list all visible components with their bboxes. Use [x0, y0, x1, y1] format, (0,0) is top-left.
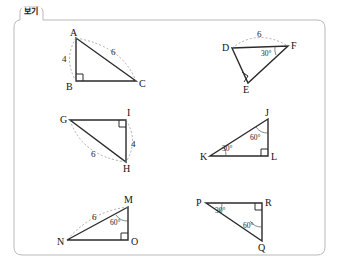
- triangle-abc: [70, 30, 137, 81]
- measure-label-gh: 6: [91, 150, 96, 159]
- legend-title: 보기: [22, 7, 41, 17]
- legend-frame: [0, 0, 338, 266]
- measure-arc-ab: [70, 38, 77, 81]
- frame-outline: [14, 7, 325, 255]
- triangle-gih-outline: [70, 120, 126, 162]
- measure-label-ac: 6: [111, 48, 116, 57]
- vertex-label-k: K: [200, 152, 207, 162]
- angle-label-k: 30°: [222, 145, 233, 153]
- vertex-label-p: P: [196, 198, 202, 208]
- right-angle-marker-r: [255, 203, 262, 210]
- vertex-label-e: E: [243, 85, 249, 95]
- vertex-label-q: Q: [258, 243, 265, 253]
- right-angle-marker-l: [261, 149, 268, 156]
- vertex-label-j: J: [265, 108, 269, 118]
- vertex-label-r: R: [265, 198, 272, 208]
- vertex-label-b: B: [66, 82, 73, 92]
- vertex-label-i: I: [127, 108, 130, 118]
- measure-label-ih: 4: [131, 140, 136, 149]
- vertex-label-f: F: [291, 41, 297, 51]
- vertex-label-d: D: [222, 43, 229, 53]
- angle-label-m: 60°: [110, 219, 121, 227]
- angle-arc-f: [275, 47, 276, 55]
- triangle-gih: [70, 120, 133, 162]
- triangle-def: [232, 37, 288, 83]
- angle-label-q: 60°: [243, 222, 254, 230]
- right-angle-marker-i: [119, 120, 126, 127]
- measure-label-df: 6: [257, 30, 262, 39]
- vertex-label-h: H: [123, 164, 130, 174]
- measure-label-mn: 6: [92, 213, 97, 222]
- angle-label-j: 60°: [250, 134, 261, 142]
- worksheet-page: 보기 A B C 4 6 D E F 6 30° G I H 4 6 J K L…: [0, 0, 338, 266]
- vertex-label-m: M: [124, 195, 133, 205]
- angle-label-p: 30°: [215, 207, 226, 215]
- triangle-abc-outline: [76, 38, 136, 81]
- vertex-label-c: C: [139, 79, 146, 89]
- right-angle-marker-b: [76, 74, 83, 81]
- vertex-label-l: L: [271, 152, 277, 162]
- vertex-label-a: A: [70, 28, 77, 38]
- vertex-label-o: O: [131, 237, 138, 247]
- triangle-def-outline: [232, 46, 288, 83]
- measure-label-ab: 4: [62, 55, 67, 64]
- angle-label-f: 30°: [261, 50, 272, 58]
- vertex-label-g: G: [60, 115, 67, 125]
- vertex-label-n: N: [57, 237, 64, 247]
- right-angle-marker-o: [121, 233, 128, 240]
